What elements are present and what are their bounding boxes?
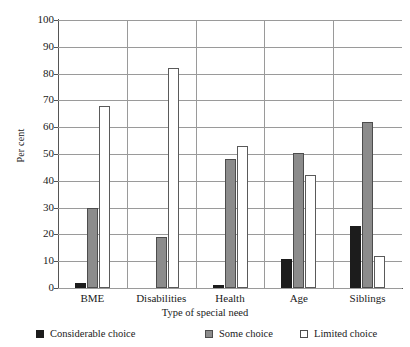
y-tick-label: 50 [24,148,54,159]
y-tick-mark [54,154,58,155]
legend-swatch-icon [36,330,44,338]
category-separator [333,20,334,288]
gridline [58,288,402,289]
legend-swatch-icon [300,330,308,338]
category-separator [127,20,128,288]
x-tick-label: Disabilities [136,292,186,304]
bar [168,68,179,288]
y-tick-label: 90 [24,41,54,52]
y-tick-mark [54,261,58,262]
y-tick-mark [54,47,58,48]
y-tick-label: 80 [24,68,54,79]
y-tick-label: 0 [24,282,54,293]
bar-chart: Per cent 0102030405060708090100 BMEDisab… [0,0,410,347]
y-tick-mark [54,208,58,209]
y-tick-mark [54,234,58,235]
x-axis-title: Type of special need [0,307,410,318]
bar [350,226,361,288]
x-tick-label: BME [80,292,104,304]
legend-item[interactable]: Limited choice [300,328,377,339]
plot-area [58,20,402,288]
x-tick-label: Age [290,292,308,304]
bar [305,175,316,288]
category-separator [264,20,265,288]
legend-item[interactable]: Considerable choice [36,328,135,339]
y-tick-mark [54,100,58,101]
y-axis-title: Per cent [15,106,26,186]
gridline [58,74,402,75]
category-separator [196,20,197,288]
bar [281,259,292,288]
legend-label: Limited choice [314,328,377,339]
y-tick-mark [54,74,58,75]
bar [362,122,373,288]
bar [99,106,110,288]
bar [225,159,236,288]
y-tick-mark [54,181,58,182]
gridline [58,100,402,101]
y-tick-label: 20 [24,228,54,239]
legend-label: Some choice [219,328,273,339]
y-tick-label: 60 [24,121,54,132]
chart-legend: Considerable choiceSome choiceLimited ch… [0,328,410,344]
bar [75,283,86,288]
y-tick-mark [54,127,58,128]
legend-swatch-icon [205,330,213,338]
y-tick-mark [54,288,58,289]
y-tick-label: 100 [24,14,54,25]
y-tick-mark [54,20,58,21]
legend-label: Considerable choice [50,328,135,339]
bar [293,153,304,288]
bar [374,256,385,288]
y-tick-label: 40 [24,175,54,186]
bar [87,208,98,288]
y-tick-label: 10 [24,255,54,266]
gridline [58,20,402,21]
bar [237,146,248,288]
x-tick-label: Siblings [350,292,386,304]
gridline [58,47,402,48]
bar [213,285,224,288]
legend-item[interactable]: Some choice [205,328,273,339]
y-tick-label: 30 [24,202,54,213]
bar [156,237,167,288]
x-tick-label: Health [215,292,244,304]
y-tick-label: 70 [24,94,54,105]
